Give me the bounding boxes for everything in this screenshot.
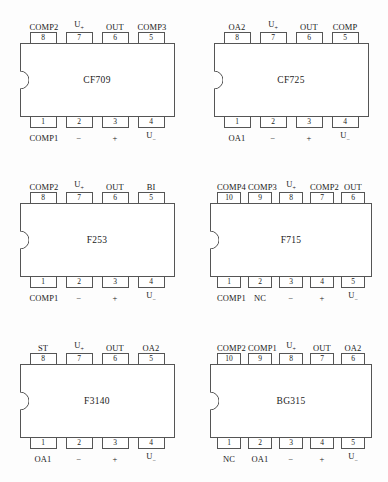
signal-label: − <box>66 134 93 143</box>
pin-box[interactable]: 2 <box>66 277 93 288</box>
pin-box[interactable]: 7 <box>310 192 334 203</box>
chip-cell: COMP2COMP1U+OUTOA2109876BG31512345NCOA1−… <box>194 320 388 482</box>
pin-box[interactable]: 8 <box>224 32 251 43</box>
chip-cell: COMP2U+OUTCOMP38765CF7091234COMP1−+U− <box>0 0 194 160</box>
pin-box[interactable]: 9 <box>248 192 272 203</box>
signal-label: − <box>66 455 93 464</box>
pin-box[interactable]: 8 <box>30 32 57 43</box>
ic-package-f715: COMP4COMP3U+COMP2OUT109876F71512345COMP1… <box>210 178 372 302</box>
signal-label: OA2 <box>138 344 165 353</box>
supply-polarity-subscript: + <box>274 25 277 31</box>
pin-box[interactable]: 6 <box>341 192 365 203</box>
pin-box[interactable]: 2 <box>66 438 93 449</box>
pin-row-bottom: 1234 <box>20 277 175 288</box>
pin-box[interactable]: 2 <box>260 117 287 128</box>
pin1-notch-icon <box>20 71 29 89</box>
signal-label: OUT <box>102 344 129 353</box>
pin-box[interactable]: 10 <box>217 192 241 203</box>
signal-label: OA1 <box>248 455 272 464</box>
pin-box[interactable]: 1 <box>30 438 57 449</box>
signal-label: COMP2 <box>217 344 241 353</box>
pin-box[interactable]: 7 <box>66 32 93 43</box>
signal-label: ST <box>30 344 57 353</box>
signal-label-row-top: OA2U+OUTCOMP <box>214 18 369 31</box>
pin1-notch-icon <box>214 71 223 89</box>
signal-label: OA2 <box>224 23 251 32</box>
signal-label: COMP <box>332 23 359 32</box>
pin-box[interactable]: 8 <box>279 192 303 203</box>
pin-box[interactable]: 6 <box>102 353 129 364</box>
pin-box[interactable]: 4 <box>138 438 165 449</box>
signal-label: NC <box>217 455 241 464</box>
chip-grid: COMP2U+OUTCOMP38765CF7091234COMP1−+U−OA2… <box>0 0 388 482</box>
pin-box[interactable]: 4 <box>138 117 165 128</box>
ic-package-cf709: COMP2U+OUTCOMP38765CF7091234COMP1−+U− <box>20 18 175 142</box>
pin-box[interactable]: 7 <box>310 353 334 364</box>
pin-box[interactable]: 4 <box>138 277 165 288</box>
pin-box[interactable]: 4 <box>310 277 334 288</box>
pin-box[interactable]: 6 <box>102 32 129 43</box>
pin-box[interactable]: 5 <box>138 353 165 364</box>
pin-box[interactable]: 2 <box>66 117 93 128</box>
signal-label: U− <box>341 452 365 463</box>
pin-box[interactable]: 5 <box>341 438 365 449</box>
pin-box[interactable]: 10 <box>217 353 241 364</box>
pin-box[interactable]: 8 <box>30 353 57 364</box>
pin-box[interactable]: 1 <box>30 117 57 128</box>
pin-row-bottom: 12345 <box>210 277 372 288</box>
signal-label: U+ <box>260 20 287 31</box>
pin-box[interactable]: 3 <box>102 277 129 288</box>
pin-box[interactable]: 2 <box>248 277 272 288</box>
signal-label: COMP1 <box>30 294 57 303</box>
pin-box[interactable]: 4 <box>310 438 334 449</box>
signal-label-row-top: STU+OUTOA2 <box>20 339 175 352</box>
signal-label-row-bottom: NCOA1−+U− <box>210 450 372 463</box>
pin-box[interactable]: 6 <box>102 192 129 203</box>
pin-box[interactable]: 3 <box>102 438 129 449</box>
pin-box[interactable]: 1 <box>217 277 241 288</box>
package-part-number: F3140 <box>84 396 110 406</box>
signal-label: COMP3 <box>248 183 272 192</box>
pin-box[interactable]: 9 <box>248 353 272 364</box>
signal-label-row-bottom: COMP1−+U− <box>20 129 175 142</box>
pin-box[interactable]: 3 <box>102 117 129 128</box>
signal-label: U− <box>138 291 165 302</box>
pin-box[interactable]: 7 <box>66 353 93 364</box>
chip-cell: STU+OUTOA28765F31401234OA1−+U− <box>0 320 194 482</box>
signal-label: − <box>279 294 303 303</box>
signal-label: OUT <box>102 23 129 32</box>
signal-label: OUT <box>102 183 129 192</box>
pin-box[interactable]: 5 <box>341 277 365 288</box>
supply-polarity-subscript: + <box>292 185 295 191</box>
signal-label-row-top: COMP2COMP1U+OUTOA2 <box>210 339 372 352</box>
pin-box[interactable]: 7 <box>66 192 93 203</box>
signal-label: + <box>310 294 334 303</box>
supply-polarity-subscript: − <box>152 457 155 463</box>
pin-box[interactable]: 1 <box>224 117 251 128</box>
signal-label: + <box>102 294 129 303</box>
signal-label: COMP1 <box>248 344 272 353</box>
signal-label: COMP2 <box>310 183 334 192</box>
pin-row-bottom: 1234 <box>20 438 175 449</box>
ic-package-f3140: STU+OUTOA28765F31401234OA1−+U− <box>20 339 175 463</box>
supply-polarity-subscript: − <box>354 296 357 302</box>
signal-label: OA1 <box>30 455 57 464</box>
pin-box[interactable]: 3 <box>279 277 303 288</box>
pin-row-top: 109876 <box>210 192 372 203</box>
pin-box[interactable]: 4 <box>332 117 359 128</box>
pin-box[interactable]: 1 <box>30 277 57 288</box>
pin-box[interactable]: 8 <box>279 353 303 364</box>
pin-box[interactable]: 6 <box>341 353 365 364</box>
pin-box[interactable]: 5 <box>138 192 165 203</box>
pin-box[interactable]: 1 <box>217 438 241 449</box>
supply-polarity-subscript: − <box>152 136 155 142</box>
signal-label: + <box>310 455 334 464</box>
pin-box[interactable]: 7 <box>260 32 287 43</box>
pin-box[interactable]: 5 <box>138 32 165 43</box>
pin-box[interactable]: 3 <box>296 117 323 128</box>
pin-box[interactable]: 5 <box>332 32 359 43</box>
pin-box[interactable]: 8 <box>30 192 57 203</box>
pin-box[interactable]: 3 <box>279 438 303 449</box>
pin-box[interactable]: 2 <box>248 438 272 449</box>
pin-box[interactable]: 6 <box>296 32 323 43</box>
